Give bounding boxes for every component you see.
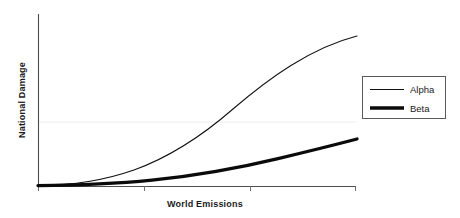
- series-line-alpha: [38, 36, 357, 186]
- series-line-beta: [38, 139, 357, 186]
- chart-container: World Emissions National Damage Alpha Be…: [0, 0, 460, 218]
- legend-label-alpha: Alpha: [410, 84, 435, 95]
- chart-legend: Alpha Beta: [363, 77, 446, 119]
- legend-label-beta: Beta: [410, 103, 430, 114]
- data-series: [38, 36, 357, 186]
- legend-box: [363, 77, 446, 119]
- axes: [38, 14, 356, 187]
- line-chart: World Emissions National Damage Alpha Be…: [0, 0, 460, 218]
- x-axis-title: World Emissions: [167, 199, 243, 209]
- y-axis-title: National Damage: [17, 62, 27, 138]
